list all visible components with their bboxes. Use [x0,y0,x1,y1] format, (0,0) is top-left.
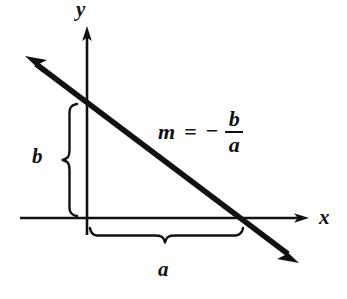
y-axis-label: y [76,0,85,20]
brace-a-label: a [158,259,169,280]
fraction-b-over-a: b a [225,108,243,156]
figure-canvas: y x b a m = − b a [0,0,347,299]
brace-a [90,228,243,243]
brace-b-label: b [32,146,43,167]
x-axis-label: x [319,207,330,228]
minus-sign: − [206,120,219,142]
slope-variable: m [158,121,175,143]
y-axis [82,26,92,235]
brace-a-path [90,228,243,243]
brace-b [63,104,78,216]
slope-formula: m = − b a [158,108,243,156]
x-axis [20,213,309,223]
equals-sign: = [184,121,197,143]
fraction-numerator: b [226,108,243,131]
plotted-line-segment [36,64,288,254]
brace-b-path [63,104,78,216]
fraction-denominator: a [226,133,243,156]
